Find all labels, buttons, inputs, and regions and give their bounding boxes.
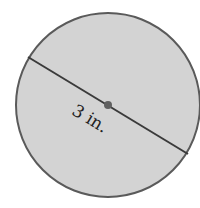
circle-diagram: 3 in. xyxy=(0,0,200,208)
circle-figure xyxy=(0,0,200,208)
center-point xyxy=(104,101,112,109)
